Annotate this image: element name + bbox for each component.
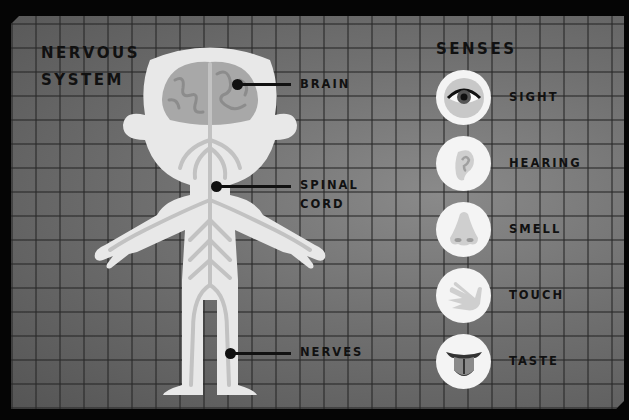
sense-label-smell: SMELL bbox=[509, 222, 561, 236]
sense-label-touch: TOUCH bbox=[509, 288, 564, 302]
human-body-figure bbox=[85, 40, 335, 395]
spinal-cord-pointer-line bbox=[217, 185, 291, 188]
sense-hearing: HEARING bbox=[436, 136, 616, 192]
spinal-cord-label-line-2: CORD bbox=[300, 195, 359, 214]
hand-icon bbox=[436, 268, 491, 323]
sense-label-taste: TASTE bbox=[509, 354, 559, 368]
sense-smell: SMELL bbox=[436, 202, 616, 258]
eye-icon bbox=[436, 70, 491, 125]
nerves-label: NERVES bbox=[300, 343, 363, 362]
nerves-pointer-line bbox=[231, 352, 291, 355]
sense-label-sight: SIGHT bbox=[509, 90, 558, 104]
sense-taste: TASTE bbox=[436, 334, 616, 390]
tongue-icon bbox=[436, 334, 491, 389]
ear-icon bbox=[436, 136, 491, 191]
spinal-cord-label: SPINAL CORD bbox=[300, 176, 359, 214]
spinal-cord-label-line-1: SPINAL bbox=[300, 176, 359, 195]
sense-touch: TOUCH bbox=[436, 268, 616, 324]
brain-pointer-line bbox=[238, 83, 291, 86]
brain-label: BRAIN bbox=[300, 75, 350, 94]
nose-icon bbox=[436, 202, 491, 257]
sense-label-hearing: HEARING bbox=[509, 156, 582, 170]
senses-title: SENSES bbox=[436, 40, 516, 58]
sense-sight: SIGHT bbox=[436, 70, 616, 126]
